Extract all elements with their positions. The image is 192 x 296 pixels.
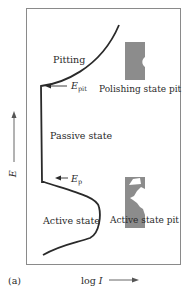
polarization-curve-plot	[0, 0, 192, 296]
e-pit-label: Epit	[71, 81, 87, 93]
y-axis-arrow-icon	[12, 111, 17, 162]
e-p-label: Ep	[71, 174, 82, 186]
pitting-region-label: Pitting	[53, 55, 85, 65]
passive-region-label: Passive state	[50, 131, 112, 141]
x-axis-label: log I	[81, 276, 103, 286]
polishing-pit-label: Polishing state pit	[99, 85, 181, 94]
active-region-label: Active state	[43, 216, 100, 226]
e-p-arrow-icon	[55, 176, 68, 181]
polishing-pit-icon	[125, 42, 145, 80]
x-axis-arrow-icon	[109, 278, 139, 283]
panel-label: (a)	[8, 276, 21, 286]
y-axis-label: E	[8, 170, 18, 177]
active-pit-label: Active state pit	[110, 216, 179, 225]
